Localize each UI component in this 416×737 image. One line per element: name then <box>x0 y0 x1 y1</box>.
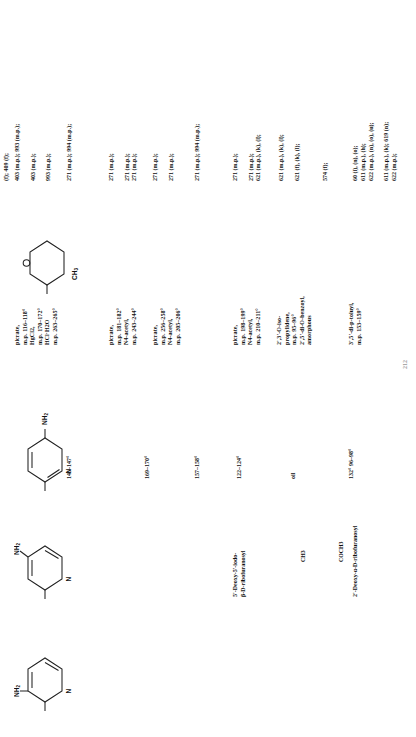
table-row: picrate, m.p. 256–258° N4-acetyl, m.p. 2… <box>152 308 182 345</box>
atom-label-o <box>23 260 30 267</box>
table-row: 5'-Deoxy-5'-iodo- β-D-ribofuranosyl <box>232 551 247 598</box>
table-row: 3',5'-di-p-toluyl, m.p. 153–159° <box>348 303 363 345</box>
scanned-page: (f); 409 (f); picrate, m.p. 116–118° HgC… <box>0 0 416 737</box>
table-row: picrate, m.p. 181–182° N4-acetyl, m.p. 2… <box>108 308 138 345</box>
table-row: 403 (m.p.); 993 (m.p.); 403 (m.p.); 993 … <box>14 124 53 181</box>
table-row: 271 (m.p.); 271 (m.p.); <box>152 153 175 181</box>
structure-2-aminopyridine: NH2 N <box>14 409 76 495</box>
atom-label-n: N <box>65 576 72 581</box>
atom-label-nh2: NH2 <box>41 413 49 426</box>
table-row: 132° 96–98° <box>348 449 356 479</box>
table-row: 122–124° <box>236 456 244 479</box>
atom-label-n: N <box>65 688 72 693</box>
table-row: 2'-Deoxy-α-D-ribofuranosyl <box>352 526 360 597</box>
table-row: 271 (m.p.); 994 (m.p.); <box>66 124 74 181</box>
table-row: picrate, m.p. 116–118° HgCl2, m.p. 170–1… <box>14 308 60 345</box>
reference-table: (f); 409 (f); picrate, m.p. 116–118° HgC… <box>0 0 416 737</box>
table-row: oil <box>290 473 298 479</box>
page-number: 212 <box>402 360 408 369</box>
table-row: 574 (f); <box>322 163 330 182</box>
table-row: 2',3'-O-iso- propylidene, m.p. 95–96° 2'… <box>276 296 314 345</box>
structure-3-aminopyridine: NH2 N <box>14 641 76 715</box>
table-row: picrate, m.p. 198–199° N4-acetyl, m.p. 2… <box>232 308 262 345</box>
atom-label-n: N <box>65 468 72 473</box>
atom-label-nh2: NH2 <box>14 543 21 556</box>
atom-label-ch3: CH3 <box>71 268 79 281</box>
table-row: 169–170° <box>144 456 152 479</box>
substituent-label-methyl: CH3 <box>300 550 306 562</box>
table-row: 271 (m.p.); 271 (m.p.); 271 (m.p.); <box>108 153 139 181</box>
table-row: 271 (m.p.); 271 (m.p.); 621 (m.p.), (k),… <box>232 134 263 181</box>
table-row: 157–158° <box>194 456 202 479</box>
substituent-label-acetyl: COCH3 <box>338 542 344 562</box>
rotated-page-container: (f); 409 (f); picrate, m.p. 116–118° HgC… <box>0 0 416 737</box>
table-row: 60 (i), (n), (o); 611 (m.p.), (h); 622 (… <box>352 122 399 181</box>
table-row: 621 (m.p.), (k), (l); 621 (f), (k), (l); <box>278 134 301 181</box>
table-header-ref: (f); 409 (f); <box>3 153 10 181</box>
structure-4-aminopyridine: NH2 N <box>14 529 76 603</box>
table-row: 271 (m.p.); 994 (m.p.); <box>194 124 202 181</box>
structure-pyranose-ring: CH3 <box>14 217 80 297</box>
